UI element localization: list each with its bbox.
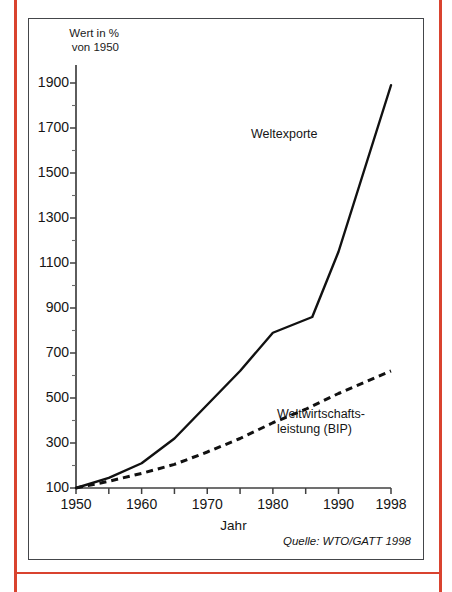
y-tick-label: 500 xyxy=(9,389,69,405)
series-label-weltexporte: Weltexporte xyxy=(251,127,317,142)
y-tick-label: 100 xyxy=(9,479,69,495)
y-axis-title-line1: Wert in % xyxy=(69,27,119,39)
x-tick-label: 1970 xyxy=(179,496,235,512)
x-tick-label: 1998 xyxy=(363,496,419,512)
y-tick-label: 900 xyxy=(9,299,69,315)
y-tick-label: 700 xyxy=(9,344,69,360)
chart-plot-area xyxy=(29,19,421,557)
y-tick-label: 1900 xyxy=(9,74,69,90)
chart-frame: Wert in %von 1950 1003005007009001100130… xyxy=(28,18,424,560)
x-tick-label: 1950 xyxy=(48,496,104,512)
x-tick-label: 1990 xyxy=(311,496,367,512)
page-rule-right xyxy=(439,0,442,592)
y-tick-label: 1500 xyxy=(9,164,69,180)
y-tick-label: 1100 xyxy=(9,254,69,270)
x-axis-title: Jahr xyxy=(76,518,391,533)
y-axis-title-line2: von 1950 xyxy=(72,41,119,53)
x-tick-label: 1960 xyxy=(114,496,170,512)
chart-page: Wert in %von 1950 1003005007009001100130… xyxy=(0,0,452,592)
source-note: Quelle: WTO/GATT 1998 xyxy=(283,535,411,547)
x-tick-label: 1980 xyxy=(245,496,301,512)
y-tick-label: 1700 xyxy=(9,119,69,135)
page-rule-bottom xyxy=(14,572,442,574)
y-tick-label: 1300 xyxy=(9,209,69,225)
y-tick-label: 300 xyxy=(9,434,69,450)
series-label-bip-line1: Weltwirtschafts- xyxy=(277,407,365,421)
series-label-bip-line2: leistung (BIP) xyxy=(277,422,352,436)
series-label-bip: Weltwirtschafts-leistung (BIP) xyxy=(277,407,365,437)
y-axis-title: Wert in %von 1950 xyxy=(35,27,119,54)
